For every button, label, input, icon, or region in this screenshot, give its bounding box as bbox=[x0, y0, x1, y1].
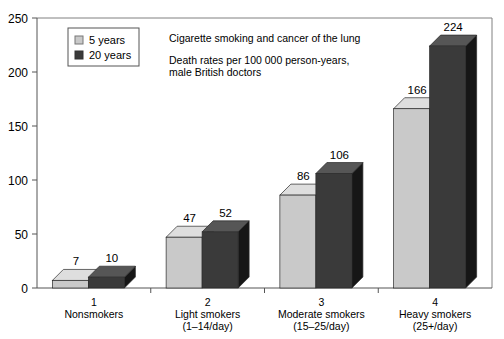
bar-20-years-group-4 bbox=[430, 35, 477, 288]
value-label-5-years-group-2: 47 bbox=[183, 212, 196, 224]
legend-label-5-years: 5 years bbox=[89, 34, 126, 46]
y-axis-tick-label: 50 bbox=[15, 228, 29, 242]
chart-container: 050100150200250 710475286106166224 1Nons… bbox=[0, 0, 504, 339]
legend-swatch-20-years bbox=[75, 51, 83, 59]
bar-front-face bbox=[280, 195, 316, 288]
category-label-group-3-line-1: 3 bbox=[318, 296, 324, 308]
category-label-group-2-line-2: Light smokers bbox=[175, 308, 240, 320]
value-label-20-years-group-1: 10 bbox=[105, 252, 118, 264]
chart-title: Cigarette smoking and cancer of the lung bbox=[169, 32, 361, 44]
bar-front-face bbox=[394, 109, 430, 288]
lung-cancer-death-rate-bar-chart: 050100150200250 710475286106166224 1Nons… bbox=[0, 0, 504, 339]
value-label-20-years-group-3: 106 bbox=[330, 149, 349, 161]
legend-label-20-years: 20 years bbox=[89, 49, 132, 61]
chart-subtitle-line-1: Death rates per 100 000 person-years, bbox=[169, 54, 349, 66]
bar-front-face bbox=[202, 232, 238, 288]
bar-side-face bbox=[466, 35, 477, 288]
x-axis-category-labels: 1Nonsmokers2Light smokers(1–14/day)3Mode… bbox=[64, 296, 471, 332]
category-label-group-2-line-3: (1–14/day) bbox=[183, 320, 233, 332]
y-axis-tick-label: 250 bbox=[8, 12, 28, 26]
bar-front-face bbox=[430, 46, 466, 288]
bar-front-face bbox=[316, 174, 352, 288]
bar-20-years-group-2 bbox=[202, 221, 249, 288]
category-label-group-1-line-2: Nonsmokers bbox=[64, 308, 123, 320]
value-label-20-years-group-2: 52 bbox=[219, 207, 232, 219]
category-label-group-4-line-2: Heavy smokers bbox=[399, 308, 471, 320]
chart-subtitle-line-2: male British doctors bbox=[169, 66, 261, 78]
legend-swatch-5-years bbox=[75, 36, 83, 44]
y-axis-tick-label: 100 bbox=[8, 174, 28, 188]
bar-front-face bbox=[166, 237, 202, 288]
category-label-group-4-line-3: (25+/day) bbox=[413, 320, 458, 332]
x-axis-ticks bbox=[151, 288, 379, 293]
value-label-20-years-group-4: 224 bbox=[444, 21, 464, 33]
bar-front-face bbox=[88, 277, 124, 288]
y-axis-tick-label: 150 bbox=[8, 120, 28, 134]
category-label-group-2-line-1: 2 bbox=[205, 296, 211, 308]
annotation-block: Cigarette smoking and cancer of the lung… bbox=[169, 32, 361, 78]
bar-20-years-group-3 bbox=[316, 163, 363, 288]
legend: 5 years 20 years bbox=[68, 28, 139, 66]
y-axis-tick-label: 0 bbox=[21, 282, 28, 296]
category-label-group-3-line-2: Moderate smokers bbox=[278, 308, 365, 320]
category-label-group-3-line-3: (15–25/day) bbox=[293, 320, 349, 332]
bar-front-face bbox=[52, 280, 88, 288]
bar-side-face bbox=[238, 221, 249, 288]
category-label-group-1-line-1: 1 bbox=[91, 296, 97, 308]
y-axis-tick-label: 200 bbox=[8, 66, 28, 80]
value-label-5-years-group-1: 7 bbox=[73, 255, 79, 267]
value-label-5-years-group-3: 86 bbox=[297, 170, 310, 182]
bars-layer bbox=[52, 35, 476, 288]
bar-side-face bbox=[352, 163, 363, 288]
y-axis: 050100150200250 bbox=[8, 12, 37, 296]
value-label-5-years-group-4: 166 bbox=[408, 84, 427, 96]
category-label-group-4-line-1: 4 bbox=[432, 296, 438, 308]
